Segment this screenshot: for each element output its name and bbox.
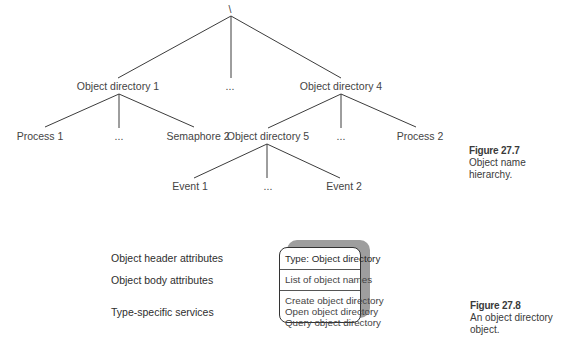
node-ellipsis: ... bbox=[226, 80, 235, 92]
caption-line: object. bbox=[470, 324, 553, 336]
caption-line: Object name bbox=[469, 157, 526, 169]
node-semaphore-2: Semaphore 2 bbox=[166, 130, 229, 142]
figure-number: Figure 27.8 bbox=[470, 300, 553, 312]
node-object-directory-5: Object directory 5 bbox=[227, 130, 309, 142]
node-ellipsis: ... bbox=[337, 130, 346, 142]
object-body-section: List of object names bbox=[280, 270, 360, 291]
service-item: Open object directory bbox=[285, 306, 360, 317]
node-object-directory-4: Object directory 4 bbox=[300, 80, 382, 92]
node-object-directory-1: Object directory 1 bbox=[77, 80, 159, 92]
figure-27-7-caption: Figure 27.7 Object name hierarchy. bbox=[469, 145, 526, 181]
figure-number: Figure 27.7 bbox=[469, 145, 526, 157]
root-node: \ bbox=[229, 3, 232, 15]
object-header-section: Type: Object directory bbox=[280, 248, 360, 270]
figure-27-8-caption: Figure 27.8 An object directory object. bbox=[470, 300, 553, 336]
service-item: Create object directory bbox=[285, 295, 360, 306]
node-ellipsis: ... bbox=[264, 180, 273, 192]
object-directory-box: Type: Object directory List of object na… bbox=[279, 247, 361, 323]
type-specific-services-label: Type-specific services bbox=[111, 306, 214, 318]
node-ellipsis: ... bbox=[115, 130, 124, 142]
node-event-2: Event 2 bbox=[326, 180, 362, 192]
caption-line: An object directory bbox=[470, 312, 553, 324]
service-item: Query object directory bbox=[285, 317, 360, 328]
services-section: Create object directory Open object dire… bbox=[280, 291, 360, 328]
node-event-1: Event 1 bbox=[172, 180, 208, 192]
node-process-2: Process 2 bbox=[397, 130, 444, 142]
caption-line: hierarchy. bbox=[469, 169, 526, 181]
node-process-1: Process 1 bbox=[17, 130, 64, 142]
object-header-attributes-label: Object header attributes bbox=[111, 252, 223, 264]
object-body-attributes-label: Object body attributes bbox=[111, 274, 213, 286]
